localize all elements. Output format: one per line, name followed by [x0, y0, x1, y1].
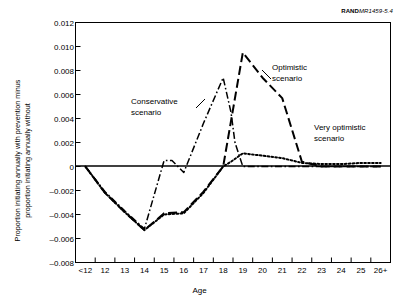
x-axis-tick-label: 15 — [160, 266, 169, 275]
x-axis-tick-label: 21 — [278, 266, 287, 275]
x-axis-tick-label: <12 — [79, 266, 93, 275]
annotation-very-optimistic-scenario: Very optimistic scenario — [314, 123, 366, 144]
x-axis-tick-label: 25 — [357, 266, 366, 275]
x-axis-tick-label: 13 — [120, 266, 129, 275]
x-axis-tick-label: 23 — [317, 266, 326, 275]
annotation-conservative-scenario: Conservative scenario — [131, 97, 178, 118]
x-axis-tick-label: 14 — [140, 266, 149, 275]
x-axis-tick-label: 22 — [297, 266, 306, 275]
x-axis-tick-label: 24 — [337, 266, 346, 275]
x-axis-tick-label: 16 — [179, 266, 188, 275]
x-axis-title: Age — [0, 286, 399, 295]
x-axis-tick-label: 19 — [238, 266, 247, 275]
x-axis-tick-label: 12 — [101, 266, 110, 275]
x-axis-tick-label: 18 — [219, 266, 228, 275]
figure-container: RANDMR1459-5.4 Proportion initiating ann… — [0, 0, 399, 301]
x-axis-tick-labels: <12121314151617181920212223242526+ — [0, 264, 399, 284]
plot-area — [0, 0, 399, 301]
x-axis-tick-label: 17 — [199, 266, 208, 275]
x-axis-tick-label: 26+ — [374, 266, 388, 275]
x-axis-tick-label: 20 — [258, 266, 267, 275]
annotation-optimistic-scenario: Optimistic scenario — [272, 63, 307, 84]
